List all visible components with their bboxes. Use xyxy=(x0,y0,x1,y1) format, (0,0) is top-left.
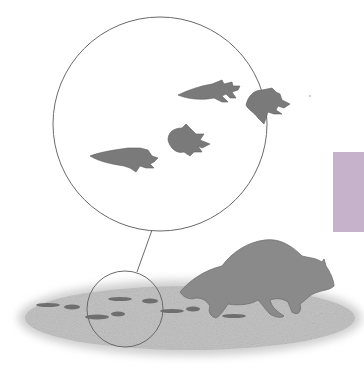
raccoon-tracks-illustration xyxy=(0,0,364,372)
large-magnifier-circle xyxy=(53,17,267,231)
speck xyxy=(309,95,311,97)
illustration xyxy=(0,0,364,372)
magnifier-connector xyxy=(137,230,152,272)
accent-color-block xyxy=(333,152,364,232)
